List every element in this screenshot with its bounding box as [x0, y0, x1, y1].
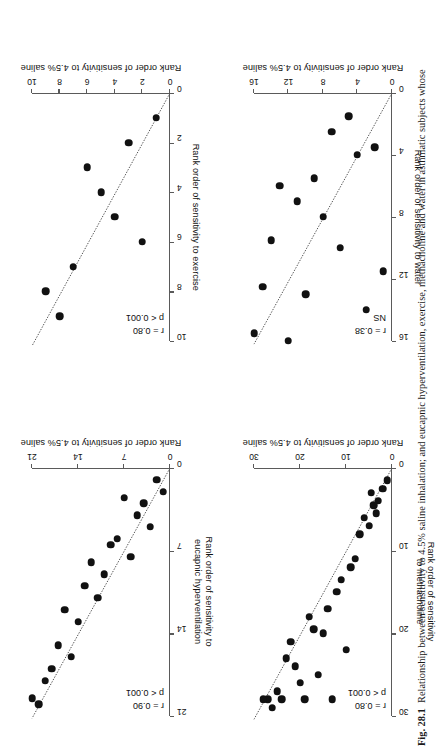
y-tick-mark	[170, 93, 174, 94]
data-point	[296, 679, 303, 686]
data-point	[250, 330, 257, 337]
data-point	[153, 114, 160, 121]
data-point	[372, 510, 379, 517]
data-point	[384, 477, 391, 484]
data-point	[97, 188, 104, 195]
figure-root: 0246810 0246810 r = 0.80 p < 0.001 Rank …	[0, 0, 444, 750]
data-point	[311, 175, 318, 182]
data-point	[268, 237, 275, 244]
y-tick-mark	[392, 633, 396, 634]
data-point	[41, 677, 48, 684]
x-tick-mark	[77, 464, 78, 468]
data-point	[329, 696, 336, 703]
y-tick-mark	[170, 143, 174, 144]
data-point	[147, 523, 154, 530]
x-tick-mark	[123, 464, 124, 468]
data-point	[328, 128, 335, 135]
data-point	[273, 687, 280, 694]
data-point	[28, 695, 35, 702]
data-point	[87, 559, 94, 566]
stats-annotation: r = 0.90 p < 0.001	[126, 686, 164, 712]
y-tick-mark	[392, 279, 396, 280]
data-point	[356, 530, 363, 537]
data-point	[287, 638, 294, 645]
x-tick-mark	[356, 89, 357, 93]
y-tick-mark	[170, 633, 174, 634]
data-point	[276, 182, 283, 189]
y-tick-mark	[392, 217, 396, 218]
x-tick-mark	[58, 89, 59, 93]
data-point	[306, 613, 313, 620]
stats-annotation: r = 0.80 p < 0.001	[126, 311, 164, 337]
y-axis-title-line: eucapnic hyperventilation	[192, 537, 203, 647]
figure-caption-wrap: Fig. 28.1 Relationship between sensitivi…	[400, 0, 444, 750]
data-point	[301, 696, 308, 703]
y-tick-label: 6	[177, 233, 182, 242]
data-point	[140, 500, 147, 507]
x-tick-label: 0	[168, 77, 173, 86]
x-axis-title: Rank order of sensitivity to 4.5% saline	[21, 437, 182, 448]
data-point	[293, 198, 300, 205]
y-tick-label: 0	[177, 84, 182, 93]
pvalue-text: p < 0.001	[348, 686, 386, 699]
x-axis-title: Rank order of sensitivity to 4.5% saline	[21, 62, 182, 73]
data-point	[125, 139, 132, 146]
x-tick-label: 7	[122, 452, 127, 461]
x-tick-label: 8	[321, 77, 326, 86]
x-tick-label: 16	[249, 77, 259, 86]
data-point	[74, 618, 81, 625]
x-tick-label: 2	[140, 77, 145, 86]
data-point	[342, 646, 349, 653]
x-tick-label: 10	[27, 77, 37, 86]
data-point	[260, 696, 267, 703]
data-point	[285, 337, 292, 344]
data-point	[380, 268, 387, 275]
x-tick-label: 0	[390, 452, 395, 461]
data-point	[81, 582, 88, 589]
plot-area-water: 0481216 0481216 r = 0.38 NS Rank order o…	[254, 93, 392, 341]
y-tick-mark	[170, 341, 174, 342]
data-point	[55, 641, 62, 648]
correlation-value: r = 0.38	[355, 324, 386, 337]
plot-area-exercise: 0246810 0246810 r = 0.80 p < 0.001 Rank …	[32, 93, 170, 341]
data-point	[56, 312, 63, 319]
data-point	[361, 514, 368, 521]
y-tick-mark	[392, 341, 396, 342]
x-tick-mark	[31, 89, 32, 93]
y-tick-label: 4	[177, 183, 182, 192]
correlation-value: r = 0.90	[126, 699, 164, 712]
plot-area-eucapnic-hyperventilation: 071421 071421 r = 0.90 p < 0.001 Rank or…	[32, 468, 170, 716]
data-point	[48, 665, 55, 672]
figure-caption-text: Relationship between sensitivity to 4.5%…	[416, 69, 427, 703]
data-point	[379, 485, 386, 492]
data-point	[292, 663, 299, 670]
x-tick-label: 6	[85, 77, 90, 86]
x-tick-mark	[31, 464, 32, 468]
x-tick-mark	[299, 464, 300, 468]
x-tick-mark	[322, 89, 323, 93]
x-tick-label: 4	[112, 77, 117, 86]
data-point	[345, 113, 352, 120]
x-tick-mark	[253, 464, 254, 468]
y-tick-label: 14	[177, 624, 187, 633]
data-point	[114, 535, 121, 542]
data-point	[94, 594, 101, 601]
figure-caption: Fig. 28.1 Relationship between sensitivi…	[414, 4, 431, 746]
x-axis-title: Rank order of sensitivity to 4.5% saline	[243, 437, 404, 448]
data-point	[42, 288, 49, 295]
y-tick-mark	[392, 155, 396, 156]
data-point	[68, 653, 75, 660]
pvalue-text: NS	[355, 311, 386, 324]
y-axis-title-line: Rank order of sensitivity to	[203, 537, 214, 647]
data-point	[315, 671, 322, 678]
data-point	[365, 522, 372, 529]
y-tick-mark	[392, 716, 396, 717]
pvalue-text: p < 0.001	[126, 311, 164, 324]
data-point	[107, 541, 114, 548]
data-point	[337, 244, 344, 251]
regression-line	[32, 468, 170, 716]
x-tick-label: 0	[168, 452, 173, 461]
data-point	[302, 291, 309, 298]
data-point	[310, 625, 317, 632]
data-point	[139, 238, 146, 245]
